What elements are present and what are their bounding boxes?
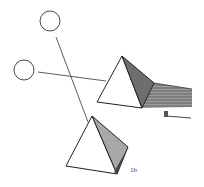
arrow-head [164, 111, 168, 117]
light-source-circle-left [14, 60, 34, 80]
panel-label: 1b [130, 166, 138, 174]
pyramid-lighting-diagram: 1b [0, 0, 204, 187]
light-ray-upper [56, 37, 88, 122]
lower-pyramid [66, 116, 128, 174]
light-source-circle-upper [40, 11, 60, 31]
upper-pyramid [97, 56, 154, 108]
shadow-direction-arrow [164, 111, 191, 118]
